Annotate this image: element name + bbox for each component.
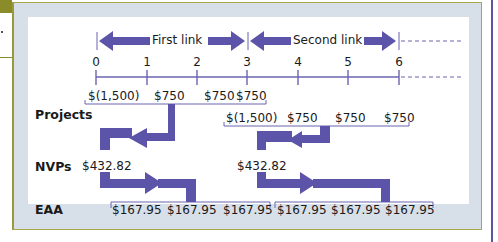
eaa-value: $167.95: [385, 204, 435, 216]
row-label-eaa: EAA: [35, 204, 63, 217]
row-label-npvs: NVPs: [35, 161, 72, 174]
eaa-value: $167.95: [277, 204, 327, 216]
first-link-right-arrow-icon: [208, 31, 245, 51]
second-link-left-arrow-icon: [250, 31, 292, 51]
project-cashflow: $750: [384, 112, 415, 124]
project-cashflow: $(1,500): [226, 112, 277, 124]
first-link-left-arrow-icon: [99, 31, 150, 51]
period-label: 3: [243, 56, 251, 68]
eaa-value: $167.95: [223, 204, 273, 216]
second-link-label: Second link: [291, 34, 364, 46]
discount-arrow-1-icon: [129, 104, 175, 148]
period-label: 0: [92, 56, 100, 68]
period-label: 4: [294, 56, 302, 68]
timeline-axis: [96, 70, 462, 85]
project-cashflow: $750: [154, 90, 185, 102]
npv-value: $432.82: [82, 160, 132, 172]
project-cashflow: $750: [287, 112, 318, 124]
period-label: 6: [395, 56, 403, 68]
eaa-value: $167.95: [331, 204, 381, 216]
project-cashflow: $750: [204, 90, 235, 102]
project-cashflow: $750: [236, 90, 267, 102]
project-cashflow: $(1,500): [88, 90, 139, 102]
eaa-value: $167.95: [112, 204, 162, 216]
discount-arrow-2-icon: [288, 126, 330, 148]
project-cashflow: $750: [335, 112, 366, 124]
annuity-arrow-2-icon: [257, 172, 317, 194]
annuity-arrow-1-icon: [100, 172, 162, 194]
eaa-value: $167.95: [167, 204, 217, 216]
period-label: 2: [193, 56, 201, 68]
npv-value: $432.82: [237, 160, 287, 172]
period-label: 1: [143, 56, 151, 68]
period-label: 5: [344, 56, 352, 68]
row-label-projects: Projects: [35, 109, 93, 122]
first-link-label: First link: [150, 34, 204, 46]
